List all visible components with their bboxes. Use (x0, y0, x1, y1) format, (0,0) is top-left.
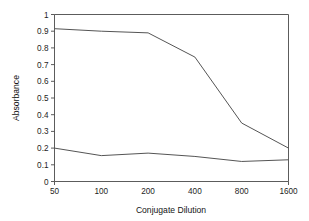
x-tick-label: 200 (141, 187, 155, 196)
x-tick-label: 50 (50, 187, 60, 196)
y-tick-label: 0.8 (37, 44, 49, 53)
x-axis-title: Conjugate Dilution (136, 205, 206, 215)
x-tick-label: 100 (94, 187, 108, 196)
y-tick-label: 0.1 (37, 161, 49, 170)
chart-figure: 00.10.20.30.40.50.60.70.80.91 5010020040… (0, 0, 309, 221)
y-tick-label: 0.6 (37, 77, 49, 86)
y-tick-label: 0.4 (37, 111, 49, 120)
y-tick-label: 0.2 (37, 144, 49, 153)
line-chart: 00.10.20.30.40.50.60.70.80.91 5010020040… (0, 0, 309, 221)
x-tick-label: 400 (188, 187, 202, 196)
x-tick-label: 1600 (279, 187, 298, 196)
x-tick-label: 800 (235, 187, 249, 196)
y-axis-title: Absorbance (11, 75, 21, 121)
y-tick-label: 1 (44, 11, 49, 20)
y-tick-label: 0 (44, 178, 49, 187)
y-tick-label: 0.5 (37, 94, 49, 103)
y-tick-label: 0.3 (37, 127, 49, 136)
y-tick-label: 0.7 (37, 61, 49, 70)
y-tick-label: 0.9 (37, 27, 49, 36)
